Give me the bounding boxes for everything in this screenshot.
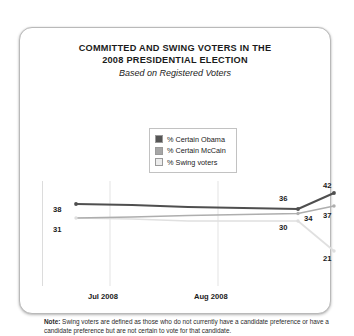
chart-footnote: Note: Swing voters are defined as those … xyxy=(44,317,340,335)
legend-item-swing: % Swing voters xyxy=(155,157,231,168)
data-point-swing-end xyxy=(332,249,335,252)
chart-title-block: COMMITTED AND SWING VOTERS IN THE 2008 P… xyxy=(20,42,330,80)
value-label-swing-end: 21 xyxy=(323,254,331,263)
data-point-obama-end xyxy=(332,191,336,195)
chart-plot-area: 38 31 36 30 34 42 37 21 xyxy=(42,181,336,286)
chart-title-line-1: COMMITTED AND SWING VOTERS IN THE xyxy=(20,42,330,54)
data-point-swing-mid xyxy=(296,219,299,222)
value-label-swing-mid: 30 xyxy=(279,223,287,232)
data-point-obama-start xyxy=(74,202,78,206)
footnote-text: Swing voters are defined as those who do… xyxy=(44,318,329,334)
x-tick-jul-2008: Jul 2008 xyxy=(88,292,118,301)
data-point-mccain-end xyxy=(332,204,335,207)
footnote-prefix: Note: xyxy=(44,318,60,325)
chart-title-line-2: 2008 PRESIDENTIAL ELECTION xyxy=(20,54,330,66)
value-label-obama-start: 38 xyxy=(53,205,61,214)
value-label-obama-mid: 36 xyxy=(279,194,287,203)
chart-x-axis: Jul 2008 Aug 2008 xyxy=(42,286,336,304)
data-point-obama-mid xyxy=(296,207,300,211)
legend-label-mccain: % Certain McCain xyxy=(167,146,226,155)
legend-swatch-obama xyxy=(155,135,163,143)
value-label-mccain-end: 37 xyxy=(323,211,331,220)
x-tick-aug-2008: Aug 2008 xyxy=(194,292,228,301)
legend-item-mccain: % Certain McCain xyxy=(155,145,231,156)
chart-subtitle: Based on Registered Voters xyxy=(20,67,330,80)
value-label-obama-end: 42 xyxy=(323,181,331,190)
series-line-obama xyxy=(76,193,334,209)
value-label-mccain-mid: 34 xyxy=(304,214,312,223)
data-point-swing-start xyxy=(74,216,77,219)
chart-legend: % Certain Obama % Certain McCain % Swing… xyxy=(149,128,237,173)
legend-label-swing: % Swing voters xyxy=(167,158,217,167)
chart-card: COMMITTED AND SWING VOTERS IN THE 2008 P… xyxy=(19,27,331,314)
legend-swatch-swing xyxy=(155,158,163,166)
value-label-swing-start: 31 xyxy=(53,225,61,234)
series-line-swing xyxy=(76,218,334,251)
data-point-mccain-mid xyxy=(296,212,299,215)
legend-swatch-mccain xyxy=(155,147,163,155)
legend-label-obama: % Certain Obama xyxy=(167,135,225,144)
chart-svg xyxy=(42,181,336,286)
legend-item-obama: % Certain Obama xyxy=(155,134,231,145)
